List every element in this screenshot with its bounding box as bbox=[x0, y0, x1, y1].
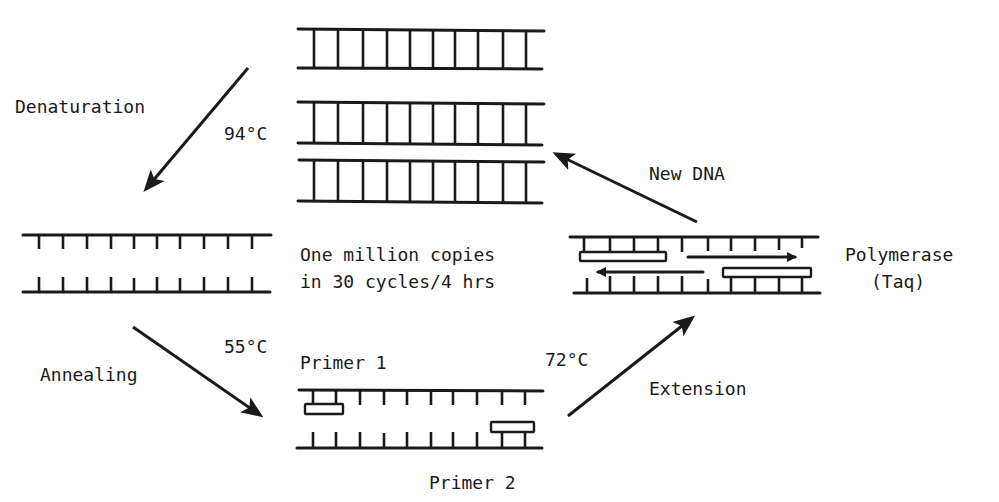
denaturation-label: Denaturation bbox=[15, 96, 145, 117]
primer-2-block bbox=[491, 422, 534, 432]
copies-note-line2: in 30 cycles/4 hrs bbox=[300, 271, 495, 292]
dna-copy-3 bbox=[298, 160, 544, 203]
copies-note-line1: One million copies bbox=[300, 244, 495, 265]
primer-1-block bbox=[305, 404, 343, 414]
extension-temperature: 72°C bbox=[545, 349, 588, 370]
dna-copy-1 bbox=[298, 29, 544, 69]
dna-copy-2 bbox=[298, 102, 544, 145]
polymerase-label-line2: (Taq) bbox=[871, 271, 925, 292]
new-dna-label: New DNA bbox=[649, 163, 725, 184]
denaturation-temperature: 94°C bbox=[224, 123, 267, 144]
extended-primer-2 bbox=[723, 268, 811, 277]
polymerase-label-line1: Polymerase bbox=[845, 244, 953, 265]
extension-label: Extension bbox=[649, 378, 747, 399]
denatured-strands bbox=[23, 235, 271, 292]
pcr-diagram: Denaturation 94°C bbox=[0, 0, 999, 502]
annealing-label: Annealing bbox=[40, 364, 138, 385]
annealing-temperature: 55°C bbox=[224, 336, 267, 357]
extension-strands bbox=[570, 237, 820, 293]
extended-primer-1 bbox=[580, 252, 666, 261]
annealed-strands bbox=[297, 390, 543, 448]
primer-2-label: Primer 2 bbox=[429, 472, 516, 493]
primer-1-label: Primer 1 bbox=[300, 352, 387, 373]
